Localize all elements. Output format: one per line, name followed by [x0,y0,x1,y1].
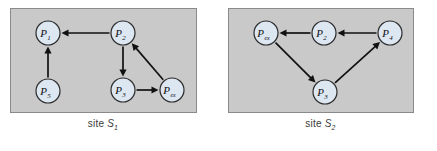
node-subscript-Pex: ex [264,35,270,41]
node-subscript-P4: 4 [389,34,393,42]
node-site-2-Pex[interactable]: Pex [254,21,278,45]
caption-site-2: site S2 [228,118,413,131]
caption-site-2-prefix: site [305,118,324,129]
caption-site-2-subscript: 2 [332,124,336,131]
node-site-2-P3[interactable]: P3 [313,80,337,104]
figure-two-wait-for-graphs: P1P2P5P3Pex site S1 PexP2P4P3 site S2 [0,0,437,151]
node-subscript-P3: 3 [323,93,328,101]
node-site-2-P4[interactable]: P4 [378,21,402,45]
node-subscript-P2: 2 [323,34,327,42]
caption-site-2-symbol: S [325,118,332,129]
node-site-2-P2[interactable]: P2 [312,21,336,45]
